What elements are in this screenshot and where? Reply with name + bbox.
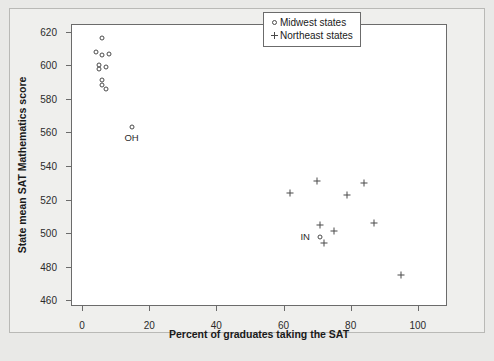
y-tick-mark: 620 bbox=[66, 32, 72, 33]
x-tick-mark: 40 bbox=[216, 305, 217, 311]
data-point bbox=[96, 66, 101, 71]
data-point bbox=[361, 179, 368, 186]
y-tick-mark: 500 bbox=[66, 233, 72, 234]
data-point bbox=[100, 36, 105, 41]
data-point bbox=[287, 189, 294, 196]
marker-circle-icon bbox=[100, 36, 105, 41]
y-tick-mark: 540 bbox=[66, 166, 72, 167]
marker-plus-icon bbox=[398, 272, 405, 279]
y-tick-mark: 460 bbox=[66, 300, 72, 301]
marker-plus-icon bbox=[271, 32, 278, 39]
data-point bbox=[318, 234, 323, 239]
data-point bbox=[100, 53, 105, 58]
marker-circle-icon bbox=[106, 51, 111, 56]
marker-circle-icon bbox=[130, 125, 135, 130]
y-tick-label: 600 bbox=[40, 60, 57, 71]
x-tick-mark: 20 bbox=[149, 305, 150, 311]
marker-plus-icon bbox=[314, 178, 321, 185]
y-tick-label: 480 bbox=[40, 261, 57, 272]
data-point bbox=[371, 220, 378, 227]
y-tick-label: 580 bbox=[40, 93, 57, 104]
y-tick-mark: 520 bbox=[66, 200, 72, 201]
data-point-label: OH bbox=[124, 132, 138, 143]
data-point bbox=[344, 191, 351, 198]
data-point bbox=[103, 86, 108, 91]
y-axis-title-text: State mean SAT Mathematics score bbox=[16, 77, 28, 254]
data-point bbox=[314, 178, 321, 185]
legend-item: Northeast states bbox=[269, 29, 353, 42]
legend-marker bbox=[269, 32, 280, 39]
y-tick-label: 520 bbox=[40, 194, 57, 205]
data-point bbox=[130, 125, 135, 130]
data-point-label: IN bbox=[300, 231, 310, 242]
y-tick-mark: 600 bbox=[66, 65, 72, 66]
marker-plus-icon bbox=[330, 228, 337, 235]
figure: State mean SAT Mathematics score 4604805… bbox=[0, 0, 494, 361]
y-tick-label: 460 bbox=[40, 295, 57, 306]
legend-marker bbox=[269, 20, 280, 25]
marker-plus-icon bbox=[344, 191, 351, 198]
legend-label: Midwest states bbox=[280, 17, 346, 28]
y-tick-label: 560 bbox=[40, 127, 57, 138]
y-tick-label: 500 bbox=[40, 228, 57, 239]
marker-circle-icon bbox=[96, 66, 101, 71]
legend-item: Midwest states bbox=[269, 16, 353, 29]
x-tick-mark: 60 bbox=[284, 305, 285, 311]
y-tick-mark: 480 bbox=[66, 267, 72, 268]
marker-plus-icon bbox=[320, 240, 327, 247]
marker-circle-icon bbox=[103, 86, 108, 91]
data-point bbox=[398, 272, 405, 279]
marker-circle-icon bbox=[103, 64, 108, 69]
marker-circle-icon bbox=[100, 53, 105, 58]
data-point bbox=[103, 64, 108, 69]
marker-circle-icon bbox=[93, 49, 98, 54]
data-point bbox=[320, 240, 327, 247]
marker-circle-icon bbox=[272, 20, 277, 25]
data-point bbox=[330, 228, 337, 235]
y-tick-mark: 580 bbox=[66, 99, 72, 100]
data-point bbox=[93, 49, 98, 54]
x-tick-mark: 80 bbox=[351, 305, 352, 311]
marker-plus-icon bbox=[287, 189, 294, 196]
marker-circle-icon bbox=[318, 234, 323, 239]
y-axis-title: State mean SAT Mathematics score bbox=[14, 24, 30, 306]
legend: Midwest statesNortheast states bbox=[263, 12, 361, 47]
x-tick-mark: 100 bbox=[418, 305, 419, 311]
plot-area: 460480500520540560580600620 020406080100… bbox=[71, 24, 447, 306]
y-tick-label: 540 bbox=[40, 161, 57, 172]
data-point bbox=[106, 51, 111, 56]
y-tick-mark: 560 bbox=[66, 132, 72, 133]
x-tick-mark: 0 bbox=[82, 305, 83, 311]
marker-plus-icon bbox=[371, 220, 378, 227]
marker-plus-icon bbox=[361, 179, 368, 186]
data-point bbox=[317, 221, 324, 228]
legend-label: Northeast states bbox=[280, 30, 353, 41]
y-tick-label: 620 bbox=[40, 26, 57, 37]
x-axis-title: Percent of graduates taking the SAT bbox=[71, 328, 447, 340]
marker-plus-icon bbox=[317, 221, 324, 228]
